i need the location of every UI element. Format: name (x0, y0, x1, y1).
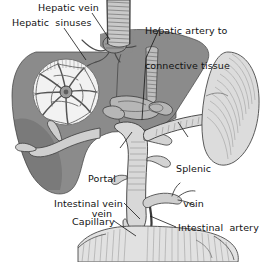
central-vein-lumen (64, 90, 69, 95)
portal-vein-gastric-branch (147, 156, 170, 167)
anatomical-figure: Hepatic vein Hepatic sinuses Hepatic art… (0, 0, 272, 262)
label-portal-vein-line1: Portal (88, 173, 116, 185)
portal-vein (112, 122, 172, 233)
label-splenic-vein: Splenic vein (176, 140, 211, 232)
label-hepatic-sinuses: Hepatic sinuses (12, 17, 91, 28)
label-hepatic-artery-to-connective-tissue: Hepatic artery to connective tissue (145, 2, 230, 94)
leader-intestinal-artery (150, 216, 176, 227)
label-splenic-vein-line1: Splenic (176, 163, 211, 175)
label-hepatic-artery-line1: Hepatic artery to (145, 25, 230, 37)
label-intestinal-vein: Intestinal vein (54, 198, 123, 209)
label-hepatic-vein: Hepatic vein (38, 2, 99, 13)
label-portal-vein: Portal vein (88, 150, 116, 242)
inferior-vena-cava (107, 0, 130, 47)
label-capillary: Capillary (72, 216, 115, 227)
label-hepatic-artery-line2: connective tissue (145, 60, 230, 72)
label-splenic-vein-line2: vein (176, 198, 211, 210)
label-intestinal-artery: Intestinal artery (178, 222, 259, 233)
